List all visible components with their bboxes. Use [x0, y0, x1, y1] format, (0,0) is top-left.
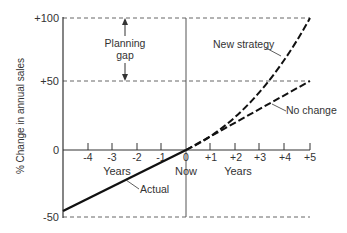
- arrow-up-icon: [122, 18, 128, 25]
- series-actual: [63, 150, 186, 211]
- years-label-right: Years: [224, 165, 252, 177]
- leader-no-change: [272, 104, 286, 111]
- arrow-down-icon: [122, 74, 128, 81]
- x-tick-neg4: -4: [83, 151, 92, 163]
- y-axis-label: % Change in annual sales: [15, 58, 26, 174]
- x-tick-0: 0: [183, 151, 189, 163]
- planning-gap-chart: % Change in annual sales +100 +50 0 -50 …: [0, 0, 347, 233]
- planning-gap-label-line2: gap: [116, 49, 134, 61]
- label-new-strategy: New strategy: [213, 38, 275, 50]
- planning-gap-label-line1: Planning: [105, 37, 146, 49]
- x-tick-neg2: -2: [132, 151, 141, 163]
- y-tick-0: 0: [53, 144, 59, 156]
- y-tick-50: +50: [40, 75, 59, 87]
- x-tick-neg3: -3: [107, 151, 116, 163]
- y-tick-neg50: -50: [43, 211, 59, 223]
- y-tick-100: +100: [34, 12, 59, 24]
- x-tick-pos2: +2: [230, 151, 242, 163]
- now-label: Now: [175, 165, 197, 177]
- years-label-left: Years: [103, 165, 131, 177]
- x-tick-pos5: +5: [304, 151, 316, 163]
- label-no-change: No change: [286, 104, 337, 116]
- x-tick-pos3: +3: [254, 151, 266, 163]
- label-actual: Actual: [140, 183, 169, 195]
- leader-actual: [126, 180, 139, 189]
- x-tick-pos4: +4: [279, 151, 291, 163]
- x-tick-pos1: +1: [205, 151, 217, 163]
